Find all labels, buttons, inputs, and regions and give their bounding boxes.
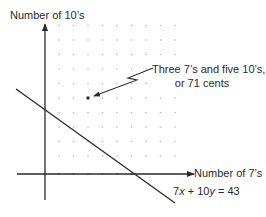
lattice-dot (131, 141, 133, 143)
callout-text: Three 7’s and five 10’s, or 71 cents (152, 62, 252, 90)
lattice-dot (116, 126, 118, 128)
lattice-dot (160, 112, 162, 114)
lattice-dot (116, 68, 118, 70)
lattice-dot (160, 39, 162, 41)
lattice-dot (174, 25, 176, 27)
lattice-dot (102, 126, 104, 128)
lattice-dot (58, 39, 60, 41)
lattice-dot (160, 97, 162, 99)
lattice-dot (116, 112, 118, 114)
lattice-dot (102, 141, 104, 143)
lattice-dot (102, 112, 104, 114)
highlighted-point (87, 97, 90, 100)
lattice-dot (174, 141, 176, 143)
lattice-dot (73, 68, 75, 70)
lattice-dot (73, 39, 75, 41)
lattice-dot (87, 112, 89, 114)
lattice-dot (58, 54, 60, 56)
lattice-dot (131, 155, 133, 157)
lattice-dot (73, 141, 75, 143)
eq-rhs: = 43 (215, 185, 240, 197)
lattice-dot (174, 112, 176, 114)
lattice-dot (102, 39, 104, 41)
lattice-dot (131, 83, 133, 85)
lattice-dot (160, 126, 162, 128)
lattice-dot (73, 54, 75, 56)
lattice-dot (145, 68, 147, 70)
equation-label: 7x + 10y = 43 (173, 185, 240, 197)
lattice-dot (174, 97, 176, 99)
lattice-dot (145, 39, 147, 41)
lattice-dot (131, 39, 133, 41)
lattice-dot (116, 54, 118, 56)
callout-line-1: Three 7’s and five 10’s, (152, 62, 252, 76)
lattice-dot (58, 25, 60, 27)
lattice-dot (145, 54, 147, 56)
lattice-dot (131, 97, 133, 99)
x-axis-label: Number of 7’s (194, 167, 262, 180)
y-axis-label: Number of 10’s (10, 9, 84, 22)
lattice-dot (102, 155, 104, 157)
lattice-dot (116, 39, 118, 41)
lattice-dot (131, 68, 133, 70)
lattice-dot (116, 83, 118, 85)
lattice-dot (145, 25, 147, 27)
lattice-dot (87, 25, 89, 27)
lattice-dot (174, 126, 176, 128)
equation-line (16, 89, 175, 203)
lattice-dot (174, 155, 176, 157)
lattice-dot (102, 83, 104, 85)
lattice-dot (102, 97, 104, 99)
lattice-dot (58, 126, 60, 128)
lattice-dot (58, 68, 60, 70)
lattice-dot (145, 126, 147, 128)
lattice-dot (131, 25, 133, 27)
lattice-dot (73, 126, 75, 128)
lattice-dot (174, 54, 176, 56)
lattice-dot (73, 97, 75, 99)
lattice-dot (131, 126, 133, 128)
lattice-dot (145, 141, 147, 143)
lattice-dot (131, 112, 133, 114)
lattice-dot (116, 155, 118, 157)
callout-leader (94, 68, 153, 96)
lattice-dot (87, 126, 89, 128)
lattice-dot (58, 83, 60, 85)
lattice-dot (73, 155, 75, 157)
callout-line-2: or 71 cents (152, 76, 252, 90)
lattice-dot (87, 68, 89, 70)
lattice-dot (58, 141, 60, 143)
lattice-dot (87, 155, 89, 157)
lattice-dot (58, 97, 60, 99)
lattice-dot (58, 155, 60, 157)
lattice-dot (160, 25, 162, 27)
lattice-dot (73, 25, 75, 27)
lattice-dot (174, 39, 176, 41)
lattice-dot (73, 83, 75, 85)
lattice-dot (160, 155, 162, 157)
lattice-dot (131, 54, 133, 56)
lattice-dot (102, 68, 104, 70)
lattice-dot (145, 112, 147, 114)
lattice-dot (73, 112, 75, 114)
eq-coef-y: 10 (197, 185, 209, 197)
lattice-dot (58, 112, 60, 114)
lattice-dot (87, 39, 89, 41)
eq-plus: + (185, 185, 198, 197)
dot-lattice (58, 25, 176, 175)
lattice-dot (87, 83, 89, 85)
lattice-dot (87, 54, 89, 56)
lattice-dot (145, 83, 147, 85)
lattice-dot (102, 54, 104, 56)
lattice-dot (116, 97, 118, 99)
lattice-dot (116, 25, 118, 27)
lattice-dot (160, 54, 162, 56)
lattice-dot (102, 25, 104, 27)
lattice-dot (145, 97, 147, 99)
lattice-dot (116, 141, 118, 143)
lattice-dot (145, 155, 147, 157)
lattice-dot (160, 141, 162, 143)
